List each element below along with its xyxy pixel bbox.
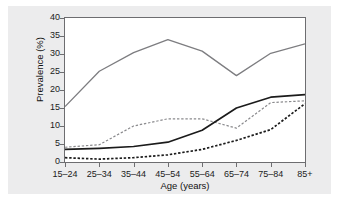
line-series-2 bbox=[65, 101, 305, 147]
y-tick-mark bbox=[60, 72, 64, 73]
x-tick-label: 85+ bbox=[285, 169, 325, 179]
chart-figure: 0510152025303540 Prevalence (%) 15–2425–… bbox=[0, 0, 339, 206]
y-tick-label: 0 bbox=[38, 157, 60, 166]
chart-plot-container: 0510152025303540 Prevalence (%) 15–2425–… bbox=[20, 12, 320, 188]
y-tick-mark bbox=[60, 36, 64, 37]
x-tick-mark bbox=[168, 163, 169, 167]
line-series-1 bbox=[65, 40, 305, 107]
y-tick-mark bbox=[60, 54, 64, 55]
y-tick-mark bbox=[60, 144, 64, 145]
x-tick-mark bbox=[65, 163, 66, 167]
x-tick-mark bbox=[202, 163, 203, 167]
y-tick-label: 5 bbox=[38, 139, 60, 148]
y-tick-mark bbox=[60, 108, 64, 109]
x-tick-mark bbox=[99, 163, 100, 167]
x-tick-mark bbox=[134, 163, 135, 167]
x-tick-mark bbox=[236, 163, 237, 167]
y-tick-mark bbox=[60, 18, 64, 19]
y-tick-mark bbox=[60, 162, 64, 163]
line-series-4 bbox=[65, 104, 305, 159]
y-tick-mark bbox=[60, 126, 64, 127]
y-tick-mark bbox=[60, 90, 64, 91]
chart-lines bbox=[65, 18, 305, 162]
x-tick-mark bbox=[305, 163, 306, 167]
x-tick-mark bbox=[271, 163, 272, 167]
x-axis-title: Age (years) bbox=[64, 180, 306, 191]
y-axis-title: Prevalence (%) bbox=[34, 10, 45, 130]
line-series-3 bbox=[65, 95, 305, 150]
